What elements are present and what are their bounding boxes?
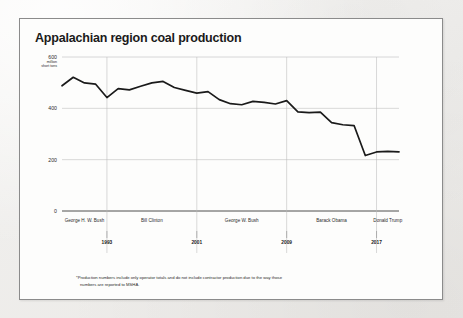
president-label-donald-trump: Donald Trump xyxy=(373,218,402,223)
president-label-george-h-w-bush: George H. W. Bush xyxy=(65,218,105,223)
y-tick-label-400: 400 xyxy=(48,105,57,111)
year-tick-label-2009: 2009 xyxy=(281,240,292,245)
footnote-line-2: numbers are reported to MSHA. xyxy=(76,282,406,289)
y-tick-label-0: 0 xyxy=(54,208,57,214)
president-label-barack-obama: Barack Obama xyxy=(316,218,347,223)
year-tick-label-1993: 1993 xyxy=(102,240,113,245)
x-axis-year-ticks-group: 1993200120092017 xyxy=(102,231,383,245)
gridlines-group xyxy=(62,57,399,211)
president-label-bill-clinton: Bill Clinton xyxy=(141,218,163,223)
y-tick-label-600: 600 xyxy=(48,54,57,60)
year-tick-label-2001: 2001 xyxy=(191,240,202,245)
chart-card: Appalachian region coal production 02004… xyxy=(19,18,443,300)
chart-footnote: *Production numbers include only operato… xyxy=(76,275,406,288)
y-unit-line-2: short tons xyxy=(41,64,57,68)
president-labels-group: George H. W. BushBill ClintonGeorge W. B… xyxy=(65,218,403,223)
y-axis-tick-labels-group: 0200400 xyxy=(48,105,57,214)
president-label-george-w-bush: George W. Bush xyxy=(225,218,259,223)
coal-production-line-chart: 0200400 600millionshort tons George H. W… xyxy=(20,19,444,301)
y-axis-unit-label: 600millionshort tons xyxy=(41,54,57,68)
chart-plot-area: 0200400 600millionshort tons George H. W… xyxy=(20,19,444,301)
year-tick-label-2017: 2017 xyxy=(371,240,382,245)
y-tick-label-200: 200 xyxy=(48,157,57,163)
production-data-line xyxy=(62,77,399,155)
term-divider-lines-group xyxy=(107,57,377,253)
